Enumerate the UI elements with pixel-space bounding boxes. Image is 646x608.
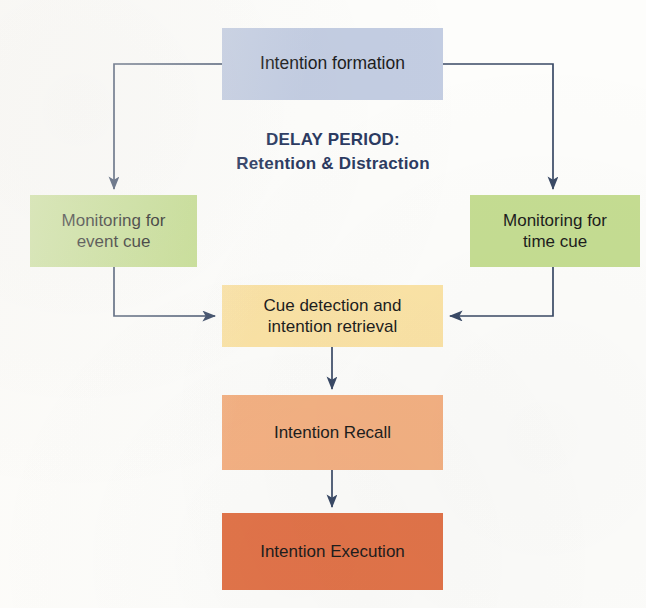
node-intention-formation: Intention formation <box>222 28 443 100</box>
node-monitoring-time-line2: time cue <box>503 231 607 252</box>
node-monitoring-event-line1: Monitoring for <box>62 210 166 231</box>
node-intention-recall-label: Intention Recall <box>274 422 391 443</box>
node-monitoring-time-text: Monitoring for time cue <box>503 210 607 253</box>
delay-period-line2: Retention & Distraction <box>173 152 493 176</box>
connector-monitoring-event-to-cue-detection <box>114 267 215 316</box>
node-intention-formation-label: Intention formation <box>260 53 405 75</box>
node-cue-detection-line1: Cue detection and <box>264 295 402 316</box>
node-cue-detection-and-intention-retrieval: Cue detection and intention retrieval <box>222 285 443 347</box>
node-monitoring-event-line2: event cue <box>62 231 166 252</box>
node-monitoring-event-text: Monitoring for event cue <box>62 210 166 253</box>
delay-period-annotation: DELAY PERIOD: Retention & Distraction <box>173 128 493 176</box>
node-monitoring-time-line1: Monitoring for <box>503 210 607 231</box>
connector-monitoring-time-to-cue-detection <box>450 267 553 316</box>
node-cue-detection-line2: intention retrieval <box>264 316 402 337</box>
node-intention-execution: Intention Execution <box>222 513 443 590</box>
node-intention-recall: Intention Recall <box>222 395 443 470</box>
delay-period-line1: DELAY PERIOD: <box>173 128 493 152</box>
node-cue-detection-text: Cue detection and intention retrieval <box>264 295 402 338</box>
node-monitoring-for-time-cue: Monitoring for time cue <box>470 195 640 267</box>
node-monitoring-for-event-cue: Monitoring for event cue <box>30 195 197 267</box>
node-intention-execution-label: Intention Execution <box>260 541 405 562</box>
flowchart-figure: Intention formation DELAY PERIOD: Retent… <box>0 0 646 608</box>
